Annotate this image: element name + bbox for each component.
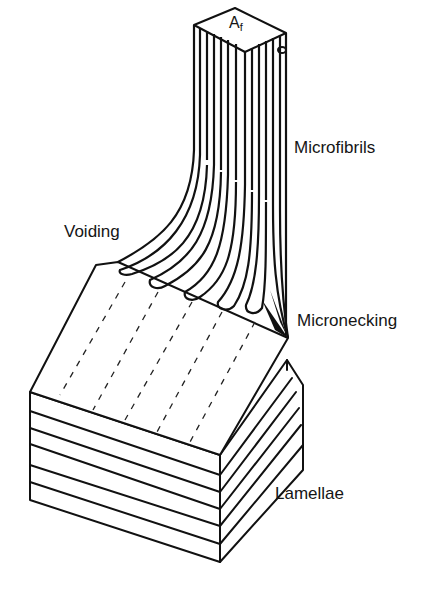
microfibrils-label: Microfibrils <box>294 138 375 158</box>
diagram-drawing <box>0 0 440 596</box>
lamellae-microfibril-diagram: Af Microfibrils Voiding Micronecking Lam… <box>0 0 440 596</box>
top-face-subscript: f <box>240 21 243 33</box>
voiding-label: Voiding <box>64 222 120 242</box>
top-face-symbol: A <box>229 14 240 31</box>
top-face-label: Af <box>229 14 243 33</box>
lamellae-label: Lamellae <box>275 484 344 504</box>
micronecking-label: Micronecking <box>297 311 397 331</box>
